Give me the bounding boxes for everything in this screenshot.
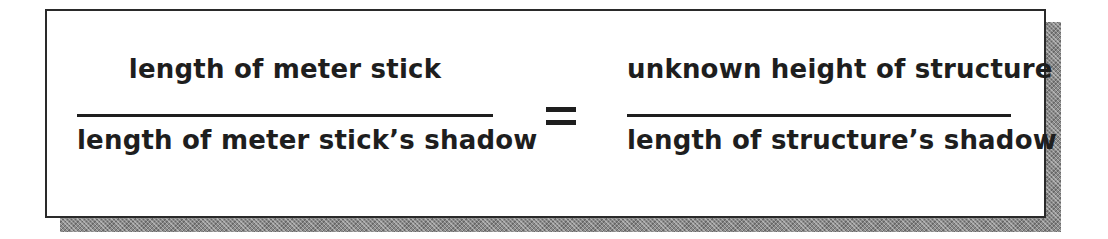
left-fraction-bar xyxy=(77,114,493,117)
equation-box: length of meter stick length of meter st… xyxy=(45,9,1046,218)
left-denominator: length of meter stick’s shadow xyxy=(77,125,493,155)
equals-bottom-stroke xyxy=(546,120,576,125)
left-numerator: length of meter stick xyxy=(77,54,493,84)
right-denominator: length of structure’s shadow xyxy=(627,125,1011,155)
equals-sign xyxy=(546,107,576,127)
right-fraction: unknown height of structure length of st… xyxy=(627,11,1011,216)
equals-top-stroke xyxy=(546,107,576,112)
left-fraction: length of meter stick length of meter st… xyxy=(77,11,493,216)
right-fraction-bar xyxy=(627,114,1011,117)
right-numerator: unknown height of structure xyxy=(627,54,1011,84)
